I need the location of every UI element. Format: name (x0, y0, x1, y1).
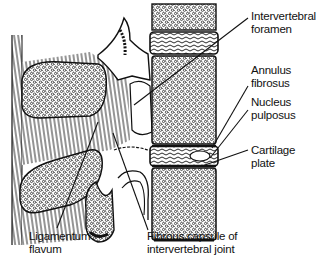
label-ligamentum-flavum: Ligamentum flavum (29, 230, 90, 256)
label-line: Fibrous capsule of (147, 230, 237, 243)
label-line: Intervertebral (251, 10, 316, 23)
label-cartilage-plate: Cartilage plate (251, 144, 316, 170)
label-line: foramen (251, 23, 316, 36)
label-fibrous-capsule: Fibrous capsule of intervertebral joint (147, 230, 237, 256)
label-line: Ligamentum (29, 230, 90, 243)
label-intervertebral-foramen: Intervertebral foramen (251, 10, 316, 36)
label-line: Cartilage plate (251, 144, 316, 170)
label-line: Annulus (251, 64, 291, 77)
spine-illustration (0, 0, 316, 264)
vertebral-column (150, 4, 218, 240)
label-line: intervertebral joint (147, 243, 237, 256)
foramen-region (130, 81, 152, 134)
posterior-ligament-strip (12, 35, 22, 245)
upper-spinous-process (22, 62, 107, 118)
label-annulus-fibrosus: Annulus fibrosus (251, 64, 291, 90)
nucleus-pulposus-shape (190, 151, 210, 161)
label-line: flavum (29, 243, 90, 256)
label-line: pulposus (251, 109, 295, 122)
label-line: fibrosus (251, 77, 291, 90)
label-line: Nucleus (251, 96, 295, 109)
label-nucleus-pulposus: Nucleus pulposus (251, 96, 295, 122)
